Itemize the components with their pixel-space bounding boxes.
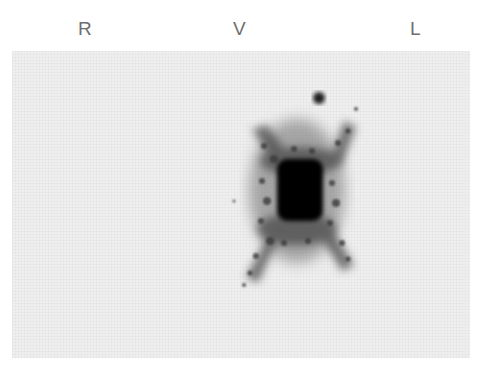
scan-panel bbox=[12, 51, 470, 358]
label-r: R bbox=[78, 18, 92, 40]
label-l: L bbox=[410, 18, 421, 40]
scintigraphy-image bbox=[12, 51, 470, 358]
label-v: V bbox=[233, 18, 246, 40]
